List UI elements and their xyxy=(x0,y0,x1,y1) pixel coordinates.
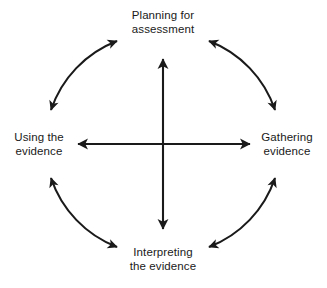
connector-planning-to-gathering xyxy=(209,41,275,110)
node-label-gathering: Gathering evidence xyxy=(247,130,327,158)
node-label-using: Using the evidence xyxy=(2,130,76,158)
node-label-planning: Planning for assessment xyxy=(103,8,223,36)
assessment-cycle-diagram: Planning for assessment Gathering eviden… xyxy=(0,0,327,288)
connector-using-to-planning xyxy=(51,41,117,110)
node-label-interpreting: Interpreting the evidence xyxy=(100,245,226,273)
connector-gathering-to-interpreting xyxy=(209,178,275,247)
connector-interpreting-to-using xyxy=(51,178,117,247)
